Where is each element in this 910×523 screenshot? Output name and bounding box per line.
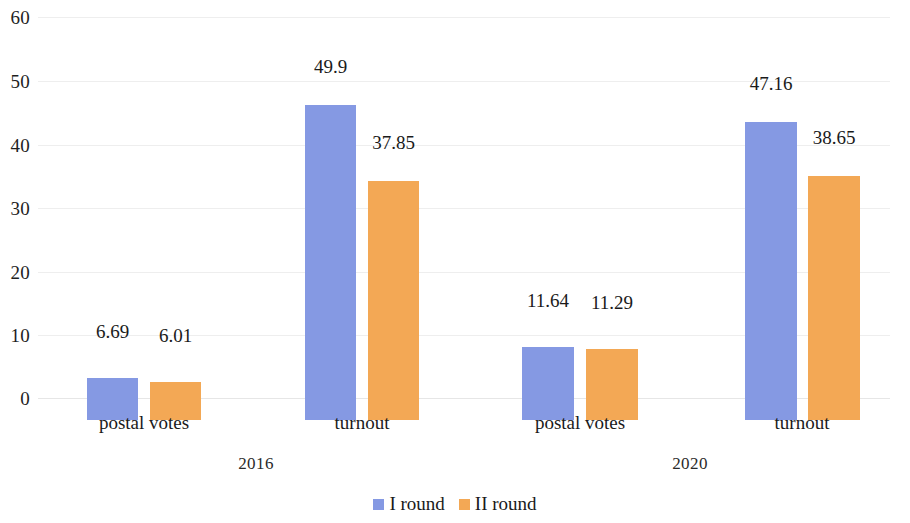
category-label-2016-turnout: turnout: [272, 413, 452, 433]
bar-2020-postal-votes-ii-round: [586, 349, 638, 420]
bar-value-label: 6.01: [140, 326, 211, 345]
legend-item-ii-round[interactable]: II round: [459, 494, 537, 513]
gridline-60: [38, 17, 890, 18]
bar-value-label: 11.64: [511, 291, 585, 310]
group-label-2016: 2016: [196, 455, 316, 473]
legend-swatch-icon: [373, 499, 384, 510]
legend-label: I round: [389, 494, 444, 513]
bar-value-label: 49.9: [295, 57, 366, 76]
y-axis-tick-30: 30: [0, 199, 30, 218]
bar-2020-postal-votes-i-round: [522, 347, 574, 420]
bar-value-label: 11.29: [575, 293, 649, 312]
bar-chart: 60 50 40 30 20 10 0 6.69 6.01 postal vot…: [0, 0, 910, 523]
group-label-2020: 2020: [630, 455, 750, 473]
bar-value-label: 38.65: [797, 128, 871, 147]
y-axis-tick-20: 20: [0, 263, 30, 282]
legend-label: II round: [475, 494, 537, 513]
bar-2020-turnout-i-round: [745, 122, 797, 420]
category-label-2020-postal-votes: postal votes: [490, 413, 670, 433]
bar-value-label: 37.85: [355, 133, 432, 152]
y-axis-tick-0: 0: [0, 389, 30, 408]
y-axis-tick-60: 60: [0, 8, 30, 27]
category-label-2016-postal-votes: postal votes: [54, 413, 234, 433]
bar-2016-turnout-ii-round: [368, 181, 419, 420]
legend-item-i-round[interactable]: I round: [373, 494, 444, 513]
bar-value-label: 6.69: [77, 322, 148, 341]
y-axis-tick-10: 10: [0, 326, 30, 345]
bar-value-label: 47.16: [734, 74, 808, 93]
bar-2016-turnout-i-round: [305, 105, 356, 420]
legend: I round II round: [0, 494, 910, 513]
category-label-2020-turnout: turnout: [712, 413, 892, 433]
legend-swatch-icon: [459, 499, 470, 510]
plot-area: 60 50 40 30 20 10 0 6.69 6.01 postal vot…: [0, 0, 910, 420]
y-axis-tick-40: 40: [0, 136, 30, 155]
y-axis-tick-50: 50: [0, 72, 30, 91]
bar-2020-turnout-ii-round: [808, 176, 860, 420]
